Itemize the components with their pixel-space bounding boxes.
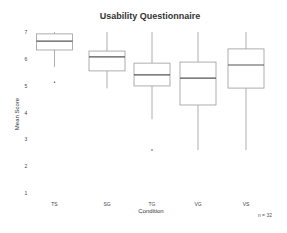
x-tick-label: TS <box>51 201 58 207</box>
x-tick-label: TG <box>149 201 156 207</box>
y-tick-label: 2 <box>25 163 28 169</box>
box-ts <box>37 32 73 83</box>
outlier-point <box>54 81 56 83</box>
iqr-box <box>89 51 125 71</box>
iqr-box <box>228 49 264 88</box>
chart-title: Usability Questionnaire <box>100 11 201 21</box>
iqr-box <box>37 34 73 50</box>
box-tg <box>134 32 170 151</box>
x-tick-label: VG <box>194 201 201 207</box>
boxplot-chart: Usability Questionnaire Mean Score 12345… <box>0 0 287 233</box>
y-tick-label: 3 <box>25 136 28 142</box>
y-axis-label: Mean Score <box>14 97 20 130</box>
y-axis-ticks: 1234567 <box>25 29 28 196</box>
x-axis-label: Condition <box>138 208 163 214</box>
outlier-point <box>151 149 153 151</box>
y-tick-label: 1 <box>25 190 28 196</box>
y-tick-label: 4 <box>25 110 28 116</box>
x-axis-ticks: TSSGTGVGVS <box>51 201 250 207</box>
box-vg <box>180 32 216 150</box>
x-tick-label: VS <box>243 201 250 207</box>
x-tick-label: SG <box>103 201 110 207</box>
y-tick-label: 7 <box>25 29 28 35</box>
y-tick-label: 6 <box>25 56 28 62</box>
y-tick-label: 5 <box>25 83 28 89</box>
box-vs <box>228 32 264 150</box>
box-group <box>37 32 265 151</box>
sample-size-note: n = 32 <box>258 212 272 218</box>
iqr-box <box>180 62 216 105</box>
box-sg <box>89 32 125 88</box>
